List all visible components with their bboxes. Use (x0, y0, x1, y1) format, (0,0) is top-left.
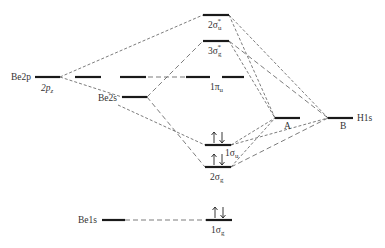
energy-levels (35, 15, 353, 220)
label-2pz: 2pz (41, 83, 54, 95)
label-B: B (340, 121, 346, 131)
label-be1s: Be1s (78, 215, 97, 225)
mo-diagram: Be2p 2pz Be2s Be1s 2σu* 3σg* 1πu 1σu 2σg… (0, 0, 385, 248)
label-h1s: H1s (357, 113, 373, 123)
label-1su: 1σu (225, 148, 239, 160)
electron-pair-2sg (212, 154, 225, 165)
electron-pair-1sg (213, 207, 226, 218)
label-3sg-star: 3σg* (208, 43, 222, 58)
label-be2s: Be2s (98, 93, 117, 103)
label-2sg: 2σg (210, 172, 224, 184)
label-1pu: 1πu (210, 82, 224, 94)
label-1sg: 1σg (211, 225, 225, 237)
label-be2p: Be2p (11, 72, 31, 82)
electron-pair-1su (212, 132, 225, 143)
label-A: A (284, 121, 291, 131)
label-2su-star: 2σu* (208, 17, 222, 32)
